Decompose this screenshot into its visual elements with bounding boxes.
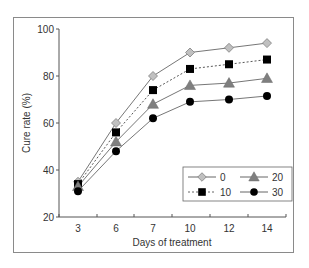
square-marker: [225, 60, 233, 68]
triangle-marker: [148, 99, 159, 109]
triangle-marker: [185, 80, 196, 90]
diamond-marker: [225, 43, 234, 52]
x-axis-title: Days of treatment: [133, 237, 212, 248]
legend-label: 10: [220, 187, 232, 198]
legend-label: 20: [272, 172, 284, 183]
circle-marker: [225, 96, 233, 104]
x-tick-label: 7: [150, 223, 156, 234]
y-tick-label: 60: [43, 118, 55, 129]
diamond-marker: [186, 48, 195, 57]
y-tick-label: 100: [37, 24, 54, 35]
legend-label: 30: [272, 187, 284, 198]
series-line-10: [78, 60, 267, 185]
circle-marker: [74, 187, 82, 195]
square-marker: [149, 86, 157, 94]
x-tick-label: 12: [223, 223, 235, 234]
triangle-marker: [262, 73, 273, 83]
line-chart: 20406080100 367101214 0201030 Cure rate …: [0, 0, 309, 268]
legend: 0201030: [183, 167, 292, 201]
circle-marker: [263, 92, 271, 100]
square-marker: [263, 56, 271, 64]
x-tick-label: 14: [261, 223, 273, 234]
square-marker: [198, 188, 206, 196]
square-marker: [112, 128, 120, 136]
x-tick-label: 10: [184, 223, 196, 234]
circle-marker: [112, 147, 120, 155]
legend-label: 0: [220, 172, 226, 183]
diamond-marker: [263, 39, 272, 48]
diamond-marker: [149, 72, 158, 81]
y-tick-label: 80: [43, 71, 55, 82]
y-tick-label: 40: [43, 165, 55, 176]
circle-marker: [250, 188, 258, 196]
diamond-marker: [112, 119, 121, 128]
y-tick-label: 20: [43, 212, 55, 223]
y-axis: 20406080100: [37, 24, 59, 223]
circle-marker: [186, 98, 194, 106]
y-axis-title: Cure rate (%): [21, 93, 32, 153]
x-tick-label: 6: [113, 223, 119, 234]
circle-marker: [149, 114, 157, 122]
square-marker: [186, 65, 194, 73]
x-axis: 367101214: [59, 214, 286, 234]
x-tick-label: 3: [75, 223, 81, 234]
